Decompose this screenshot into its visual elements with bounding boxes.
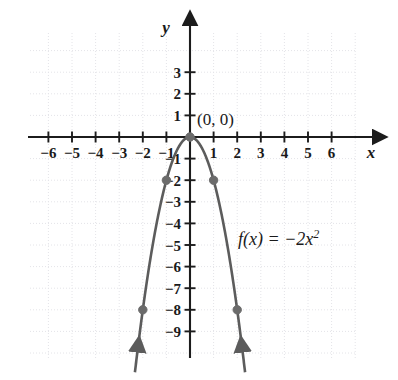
x-tick-label: 2 xyxy=(233,145,241,161)
coordinate-plane-chart: −6−5−4−3−2−1123456 321−1−2−3−4−5−6−7−8−9… xyxy=(0,0,398,380)
x-tick-label: −2 xyxy=(135,145,151,161)
x-tick-label: −4 xyxy=(88,145,105,161)
function-label-exponent: 2 xyxy=(313,227,319,241)
data-point-marker xyxy=(139,306,147,314)
y-tick-label: −5 xyxy=(165,238,181,254)
x-tick-label: −6 xyxy=(40,145,57,161)
data-point-marker xyxy=(233,306,241,314)
y-tick-label: −9 xyxy=(165,324,181,340)
function-label-base: f(x) = −2x xyxy=(238,229,313,250)
y-tick-label: −7 xyxy=(165,281,182,297)
y-tick-label: 1 xyxy=(174,108,182,124)
y-tick-label: −4 xyxy=(165,216,182,232)
data-point-marker xyxy=(209,176,217,184)
y-tick-label: −6 xyxy=(165,259,182,275)
data-point-marker xyxy=(162,176,170,184)
x-tick-label: 6 xyxy=(328,145,336,161)
x-tick-label: 4 xyxy=(281,145,289,161)
x-tick-label: 3 xyxy=(257,145,265,161)
y-tick-label: −3 xyxy=(165,194,181,210)
data-point-marker xyxy=(186,133,194,141)
vertex-point-label: (0, 0) xyxy=(197,110,234,129)
x-tick-label: −5 xyxy=(64,145,80,161)
x-axis-title: x xyxy=(366,143,376,162)
y-tick-label: −8 xyxy=(165,302,181,318)
y-axis-title: y xyxy=(160,18,170,37)
y-tick-label: 3 xyxy=(174,65,182,81)
chart-background xyxy=(0,0,398,380)
graph-figure: −6−5−4−3−2−1123456 321−1−2−3−4−5−6−7−8−9… xyxy=(0,0,398,380)
x-tick-label: 1 xyxy=(210,145,218,161)
function-equation-label: f(x) = −2x2 xyxy=(238,227,319,250)
x-tick-label: −3 xyxy=(111,145,127,161)
x-tick-label: 5 xyxy=(304,145,312,161)
y-tick-label: 2 xyxy=(174,86,182,102)
